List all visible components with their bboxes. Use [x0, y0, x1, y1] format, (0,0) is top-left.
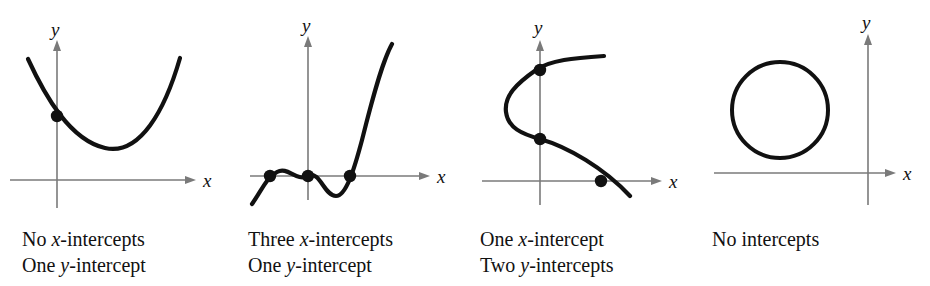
caption-prefix: One [22, 254, 60, 276]
plot-parabola-up: y x [0, 0, 232, 215]
caption-suffix: -intercepts [309, 228, 393, 250]
y-axis-label: y [300, 15, 311, 36]
caption-line-1: No intercepts [712, 226, 819, 252]
caption-line-1: One x-intercept [480, 226, 614, 252]
y-axis-label: y [860, 12, 871, 33]
plot-cubic: y x [232, 0, 464, 215]
caption-variable-x: x [300, 228, 309, 250]
y-axis-arrow-icon [536, 40, 544, 51]
curve-sideways-parabola [506, 56, 630, 196]
caption-line-2: Two y-intercepts [480, 252, 614, 278]
caption-suffix: -intercept [69, 254, 146, 276]
y-intercept-dot [534, 64, 546, 76]
caption-line-1: No x-intercepts [22, 226, 146, 252]
x-axis-arrow-icon [419, 172, 430, 180]
caption-suffix: -intercept [295, 254, 372, 276]
x-intercept-dot [264, 170, 276, 182]
x-intercept-dot [302, 170, 314, 182]
y-axis-arrow-icon [304, 36, 312, 47]
caption-prefix: One [480, 228, 518, 250]
y-intercept-dot [51, 110, 63, 122]
x-axis-label: x [902, 163, 912, 184]
caption-line-2: One y-intercept [22, 252, 146, 278]
caption-variable-y: y [60, 254, 69, 276]
caption-suffix: -intercept [527, 228, 604, 250]
caption-prefix: Three [248, 228, 300, 250]
caption-variable-y: y [520, 254, 529, 276]
x-intercept-dot [344, 170, 356, 182]
panel-cubic: y x Three x-intercepts One y-intercept [232, 0, 464, 286]
curve-parabola [28, 58, 180, 149]
x-axis-arrow-icon [651, 177, 662, 185]
caption-variable-x: x [518, 228, 527, 250]
y-axis-arrow-icon [864, 34, 872, 45]
x-intercept-dot [595, 175, 607, 187]
caption-variable-y: y [286, 254, 295, 276]
x-axis-arrow-icon [885, 169, 896, 177]
x-axis-label: x [668, 171, 678, 192]
panel-parabola-up: y x No x-intercepts One y-intercept [0, 0, 232, 286]
x-axis-label: x [436, 166, 446, 187]
plot-circle: y x [696, 0, 930, 215]
panel-circle: y x No intercepts [696, 0, 930, 286]
caption-prefix: No [22, 228, 51, 250]
figure-intercepts: y x No x-intercepts One y-intercept y x [0, 0, 930, 286]
curve-circle [732, 62, 828, 158]
caption-panel-1: No x-intercepts One y-intercept [22, 226, 146, 278]
caption-prefix: One [248, 254, 286, 276]
plot-sideways-parabola: y x [464, 0, 696, 215]
caption-panel-4: No intercepts [712, 226, 819, 252]
x-axis-label: x [202, 170, 212, 191]
caption-panel-2: Three x-intercepts One y-intercept [248, 226, 393, 278]
y-axis-label: y [532, 17, 543, 38]
caption-suffix: -intercepts [529, 254, 613, 276]
panel-sideways-parabola: y x One x-intercept Two y-intercepts [464, 0, 696, 286]
caption-panel-3: One x-intercept Two y-intercepts [480, 226, 614, 278]
y-axis-arrow-icon [53, 40, 61, 51]
caption-suffix: -intercepts [60, 228, 144, 250]
caption-line-1: Three x-intercepts [248, 226, 393, 252]
caption-prefix: Two [480, 254, 520, 276]
y-intercept-dot [534, 133, 546, 145]
caption-variable-x: x [51, 228, 60, 250]
caption-line-2: One y-intercept [248, 252, 393, 278]
x-axis-arrow-icon [185, 176, 196, 184]
y-axis-label: y [49, 19, 60, 40]
